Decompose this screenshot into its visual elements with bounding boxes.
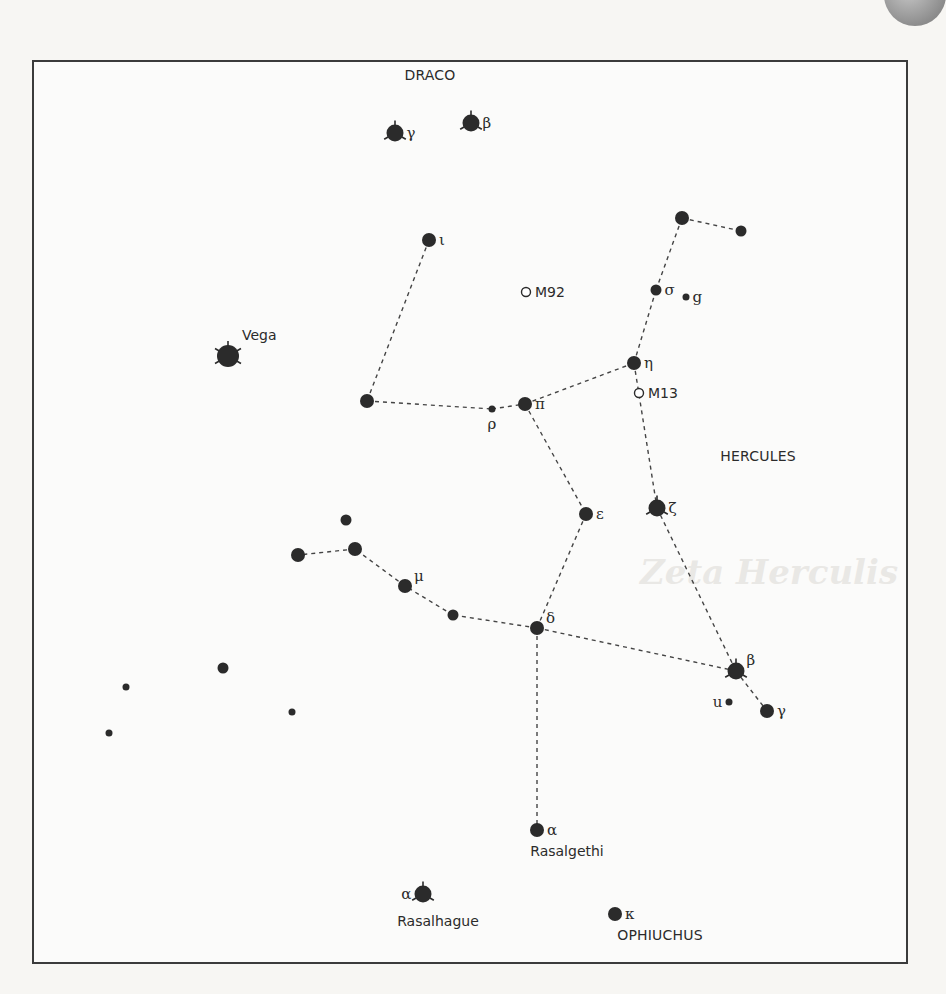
- star-dot: [651, 285, 662, 296]
- greek-letter-label: ε: [596, 505, 604, 523]
- star-dot: [341, 515, 352, 526]
- constellation-name-hercules: HERCULES: [720, 448, 796, 464]
- constellation-name-draco: DRACO: [404, 67, 455, 83]
- greek-letter-label: ρ: [488, 415, 497, 433]
- star-spike: [460, 127, 464, 130]
- constellation-line: [537, 514, 586, 628]
- star-dot: [448, 610, 459, 621]
- star-dot: [518, 397, 532, 411]
- star-her-pi: [518, 397, 532, 411]
- star-field-4: [106, 730, 113, 737]
- star-name-label: Vega: [242, 327, 277, 343]
- star-her-zeta: [646, 496, 668, 517]
- star-dot: [530, 621, 544, 635]
- labels: γβιVegaρπησgεζδμβγuαακM92M13DRACOHERCULE…: [242, 67, 796, 943]
- star-her-g: [683, 294, 690, 301]
- greek-letter-label: u: [713, 693, 723, 711]
- greek-letter-label: α: [547, 821, 557, 839]
- star-dot: [728, 663, 745, 680]
- star-name-label: Rasalhague: [397, 913, 479, 929]
- greek-letter-label: γ: [407, 124, 416, 142]
- greek-letter-label: ι: [439, 231, 445, 249]
- star-spike: [237, 349, 241, 352]
- star-spike: [725, 675, 729, 678]
- greek-letter-label: δ: [546, 609, 555, 627]
- star-spike: [412, 898, 416, 901]
- greek-letter-label: β: [747, 651, 756, 669]
- constellation-line: [657, 508, 736, 671]
- constellation-line: [525, 404, 586, 514]
- star-dot: [579, 507, 593, 521]
- constellation-line: [453, 615, 537, 628]
- star-field-2: [123, 684, 130, 691]
- star-dot: [649, 500, 666, 517]
- star-spike: [429, 898, 433, 901]
- cluster-M13-marker: [635, 389, 644, 398]
- star-dra-gamma: [384, 121, 406, 142]
- star-her-lambda: [448, 610, 459, 621]
- star-dot: [106, 730, 113, 737]
- star-dot: [218, 663, 229, 674]
- star-dot: [348, 542, 362, 556]
- star-spike: [215, 361, 219, 364]
- star-spike: [401, 137, 405, 140]
- star-dot: [360, 394, 374, 408]
- clusters: [522, 288, 644, 398]
- star-dot: [760, 704, 774, 718]
- constellation-line: [298, 549, 355, 555]
- star-her-epsilon: [579, 507, 593, 521]
- star-dot: [463, 115, 480, 132]
- constellation-line: [634, 290, 656, 363]
- star-her-rho: [489, 406, 496, 413]
- star-dot: [489, 406, 496, 413]
- star-field-3: [289, 709, 296, 716]
- star-dot: [415, 886, 432, 903]
- star-dot: [387, 125, 404, 142]
- star-her-theta: [360, 394, 374, 408]
- star-her-phi: [736, 226, 747, 237]
- greek-letter-label: η: [644, 354, 653, 372]
- star-dot: [726, 699, 733, 706]
- star-her-omicron: [341, 515, 352, 526]
- constellation-line: [367, 401, 492, 409]
- star-her-beta: [725, 659, 747, 680]
- cluster-label: M92: [535, 284, 565, 300]
- star-dot: [675, 211, 689, 225]
- star-dot: [123, 684, 130, 691]
- greek-letter-label: μ: [414, 567, 424, 585]
- star-spike: [663, 512, 667, 515]
- star-spike: [477, 127, 481, 130]
- star-dot: [608, 907, 622, 921]
- star-dot: [530, 823, 544, 837]
- star-dot: [291, 548, 305, 562]
- star-dot: [422, 233, 436, 247]
- star-spike: [742, 675, 746, 678]
- star-field-1: [218, 663, 229, 674]
- constellation-line: [682, 218, 741, 231]
- greek-letter-label: π: [535, 395, 545, 413]
- greek-letter-label: g: [693, 288, 703, 306]
- star-her-nu: [291, 548, 305, 562]
- star-spike: [384, 137, 388, 140]
- greek-letter-label: α: [401, 885, 411, 903]
- star-her-alpha: [530, 823, 544, 837]
- cluster-M92-marker: [522, 288, 531, 297]
- greek-letter-label: κ: [625, 905, 635, 923]
- constellation-name-ophiuchus: OPHIUCHUS: [617, 927, 703, 943]
- star-spike: [646, 512, 650, 515]
- star-dot: [289, 709, 296, 716]
- star-name-label: Rasalgethi: [530, 843, 604, 859]
- star-her-gamma: [760, 704, 774, 718]
- greek-letter-label: γ: [777, 702, 786, 720]
- star-her-tau: [675, 211, 689, 225]
- greek-letter-label: ζ: [669, 499, 677, 517]
- star-dot: [683, 294, 690, 301]
- star-dot: [627, 356, 641, 370]
- star-dra-beta: [460, 111, 482, 132]
- greek-letter-label: σ: [665, 281, 675, 299]
- star-oph-alpha: [412, 882, 434, 903]
- constellation-line: [405, 586, 453, 615]
- greek-letter-label: β: [483, 114, 492, 132]
- star-her-iota: [422, 233, 436, 247]
